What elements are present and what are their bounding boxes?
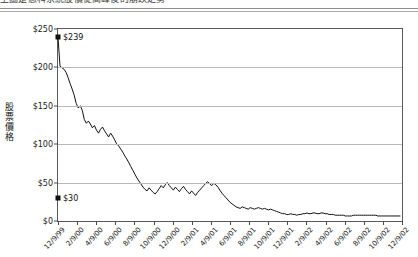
x-tick-mark — [173, 221, 174, 225]
x-tick-mark — [96, 221, 97, 225]
annotation-marker — [56, 195, 61, 200]
x-tick-mark — [383, 221, 384, 225]
x-tick-mark — [115, 221, 116, 225]
x-tick-mark — [268, 221, 269, 225]
chart-page: 上圖是思科系統股價從高峰後的崩跌走勢 股票價格 $0$50$100$150$20… — [0, 0, 418, 257]
y-tick-label: $150 — [33, 101, 53, 110]
x-tick-mark — [345, 221, 346, 225]
y-axis-title-char: 格 — [2, 132, 16, 142]
y-gridline — [58, 183, 402, 184]
y-tick-label: $50 — [38, 178, 53, 187]
annotation-marker — [56, 35, 61, 40]
y-tick-mark — [54, 144, 58, 145]
x-tick-mark — [58, 221, 59, 225]
cropped-heading-text-line: 上圖是思科系統股價從高峰後的崩跌走勢 — [0, 0, 418, 4]
plot-area: $0$50$100$150$200$25012/9/992/9/004/9/00… — [57, 28, 403, 222]
annotation-label: $30 — [63, 193, 78, 202]
y-tick-label: $250 — [33, 25, 53, 34]
y-tick-label: $200 — [33, 63, 53, 72]
y-tick-mark — [54, 67, 58, 68]
annotation-label: $239 — [63, 33, 83, 42]
y-axis-title: 股票價格 — [2, 102, 16, 142]
x-tick-mark — [134, 221, 135, 225]
horizontal-rule-lower — [0, 11, 418, 12]
x-tick-label: 4/9/00 — [84, 226, 105, 248]
cropped-heading-text: 上圖是思科系統股價從高峰後的崩跌走勢 — [0, 0, 418, 4]
x-tick-label: 6/9/02 — [332, 226, 353, 248]
x-tick-mark — [402, 221, 403, 225]
y-tick-label: $0 — [43, 217, 53, 226]
y-gridline — [58, 144, 402, 145]
x-tick-label: 6/9/00 — [103, 226, 124, 248]
x-tick-mark — [77, 221, 78, 225]
series-line — [58, 29, 402, 221]
x-tick-mark — [249, 221, 250, 225]
x-tick-mark — [211, 221, 212, 225]
y-tick-mark — [54, 29, 58, 30]
x-tick-mark — [154, 221, 155, 225]
x-tick-mark — [230, 221, 231, 225]
y-gridline — [58, 67, 402, 68]
x-tick-label: 2/9/01 — [179, 226, 200, 248]
y-tick-mark — [54, 105, 58, 106]
horizontal-rule-upper — [0, 8, 418, 9]
y-axis-title-char: 票 — [2, 112, 16, 122]
x-tick-label: 2/9/02 — [294, 226, 315, 248]
x-tick-mark — [192, 221, 193, 225]
x-tick-label: 12/9/99 — [43, 226, 67, 251]
y-axis-title-char: 價 — [2, 122, 16, 132]
x-tick-mark — [326, 221, 327, 225]
y-axis-title-char: 股 — [2, 102, 16, 112]
y-tick-label: $100 — [33, 140, 53, 149]
x-tick-mark — [287, 221, 288, 225]
y-tick-mark — [54, 182, 58, 183]
x-tick-label: 6/9/01 — [218, 226, 239, 248]
x-tick-label: 4/9/01 — [199, 226, 220, 248]
x-tick-label: 4/9/02 — [313, 226, 334, 248]
y-gridline — [58, 106, 402, 107]
x-tick-label: 2/9/00 — [65, 226, 86, 248]
x-tick-mark — [306, 221, 307, 225]
x-tick-mark — [364, 221, 365, 225]
stock-price-chart: 股票價格 $0$50$100$150$200$25012/9/992/9/004… — [0, 14, 418, 257]
